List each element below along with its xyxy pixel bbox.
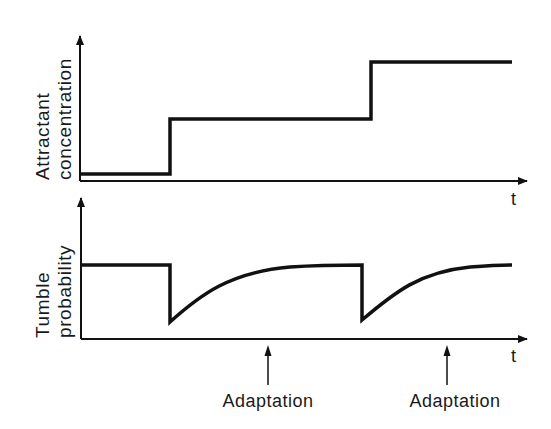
arrowhead-icon (444, 345, 451, 356)
top-ylabel-line1: Attractant (32, 93, 53, 180)
top-xlabel: t (511, 189, 516, 209)
top-panel: Attractant concentration t (32, 36, 527, 209)
bottom-xlabel: t (511, 346, 516, 366)
adaptation-annotation-1: Adaptation (222, 345, 313, 411)
tumble-probability-curve (81, 265, 512, 322)
bottom-ylabel-line1: Tumble (32, 272, 53, 338)
top-ylabel-line2: concentration (54, 58, 75, 180)
adaptation-label-1: Adaptation (222, 391, 313, 411)
adaptation-diagram: Attractant concentration t Tumble probab… (0, 0, 551, 429)
bottom-ylabel-line2: probability (54, 245, 75, 338)
attractant-step-line (81, 62, 512, 174)
arrowhead-icon (265, 345, 272, 356)
adaptation-label-2: Adaptation (409, 391, 500, 411)
bottom-panel: Tumble probability t Adaptation Adaptati… (32, 198, 527, 411)
adaptation-annotation-2: Adaptation (409, 345, 500, 411)
